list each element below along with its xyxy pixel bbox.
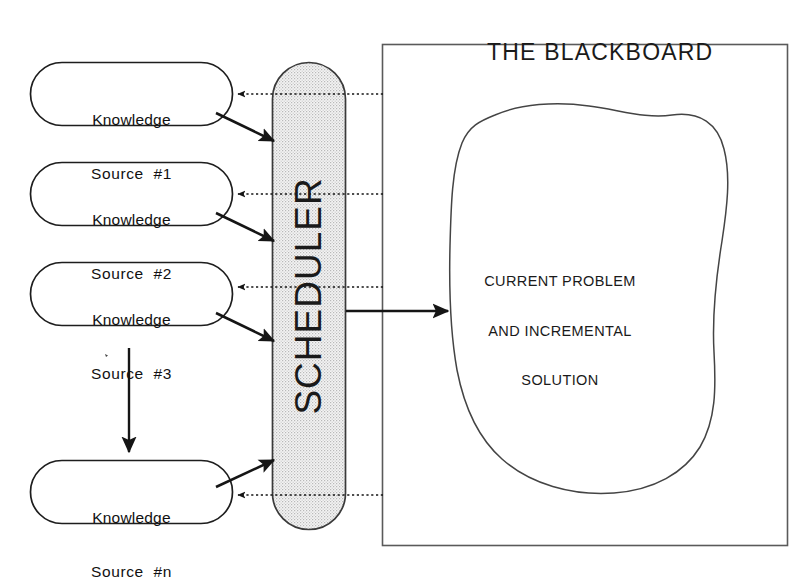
ks-label-3-line1: Knowledge [30, 311, 233, 329]
ks-label-4-line1: Knowledge [30, 509, 233, 527]
blackboard-title-text: THE BLACKBOARD [487, 39, 713, 66]
blob-label-line1: CURRENT PROBLEM [448, 273, 672, 290]
scheduler-bar[interactable] [273, 63, 346, 530]
blob-label-line2: AND INCREMENTAL [448, 323, 672, 340]
ks-label-2-line1: Knowledge [30, 211, 233, 229]
ks-label-3-line2: Source #3 [30, 365, 233, 383]
knowledge-source-label-4: Knowledge Source #n [30, 473, 233, 581]
knowledge-source-label-3: Knowledge Source #3 [30, 275, 233, 419]
problem-solution-label: CURRENT PROBLEM AND INCREMENTAL SOLUTION [448, 240, 672, 422]
blob-label-line3: SOLUTION [448, 372, 672, 389]
ks-label-4-line2: Source #n [30, 563, 233, 581]
ks-label-1-line1: Knowledge [30, 111, 233, 129]
